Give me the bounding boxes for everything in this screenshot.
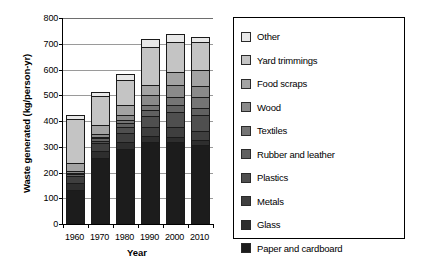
bar-1960 [66,115,85,224]
y-tick-label: 700 [24,39,58,49]
stacked-bar-chart: Waste generated (kg/person-yr) 010020030… [0,0,426,278]
y-tick-label: 400 [24,116,58,126]
legend-swatch-icon [241,79,251,89]
bar-segment [91,96,110,126]
y-tick-label: 800 [24,13,58,23]
legend-item[interactable]: Other [241,25,404,49]
bar-1970 [91,92,110,224]
bar-2000 [166,34,185,224]
y-tick-mark [59,121,63,122]
chart-legend: OtherYard trimmingsFood scrapsWoodTextil… [233,17,405,239]
bar-segment [166,85,185,97]
legend-swatch-icon [241,220,251,230]
bar-segment [191,145,210,224]
bar-segment [191,70,210,86]
x-tick-mark [63,224,64,228]
x-tick-mark [88,224,89,228]
bar-segment [141,47,160,86]
x-tick-label-2010: 2010 [180,232,220,242]
x-tick-mark [113,224,114,228]
bar-segment [191,86,210,98]
y-tick-label: 500 [24,90,58,100]
bar-segment [116,149,135,224]
legend-swatch-icon [241,55,251,65]
legend-item[interactable]: Metals [241,190,404,214]
x-tick-mark [188,224,189,228]
legend-label: Other [257,31,280,42]
bar-segment [191,115,210,131]
legend-item[interactable]: Wood [241,96,404,120]
y-tick-mark [59,147,63,148]
legend-swatch-icon [241,243,251,253]
legend-label: Food scraps [257,78,307,89]
bar-1980 [116,74,135,224]
legend-item[interactable]: Yard trimmings [241,49,404,73]
bar-segment [66,190,85,224]
x-axis-title: Year [97,247,177,258]
legend-swatch-icon [241,32,251,42]
y-tick-mark [59,173,63,174]
y-tick-label: 300 [24,142,58,152]
bar-2010 [191,37,210,224]
legend-item[interactable]: Plastics [241,166,404,190]
legend-item[interactable]: Paper and cardboard [241,237,404,261]
legend-label: Metals [257,196,284,207]
bar-segment [91,158,110,224]
y-tick-mark [59,18,63,19]
bar-segment [141,142,160,224]
legend-label: Yard trimmings [257,55,317,66]
y-tick-mark [59,198,63,199]
legend-item[interactable]: Food scraps [241,72,404,96]
y-tick-label: 200 [24,168,58,178]
bar-segment [66,119,85,163]
y-tick-mark [59,95,63,96]
legend-swatch-icon [241,149,251,159]
y-axis-tick-labels: 0100200300400500600700800 [24,0,58,278]
legend-swatch-icon [241,196,251,206]
bar-segment [166,42,185,73]
bar-segment [116,80,135,106]
y-tick-mark [59,44,63,45]
legend-label: Textiles [257,125,287,136]
legend-label: Plastics [257,172,288,183]
gridline [63,18,213,19]
x-tick-mark [213,224,214,228]
y-tick-label: 100 [24,193,58,203]
bar-segment [191,42,210,70]
bar-segment [166,72,185,86]
bar-segment [166,112,185,128]
y-tick-mark [59,70,63,71]
x-tick-mark [163,224,164,228]
y-tick-label: 600 [24,65,58,75]
legend-label: Glass [257,219,280,230]
legend-swatch-icon [241,102,251,112]
y-tick-label: 0 [24,219,58,229]
legend-label: Rubber and leather [257,149,335,160]
legend-label: Wood [257,102,281,113]
legend-label: Paper and cardboard [257,243,342,254]
legend-swatch-icon [241,173,251,183]
bar-1990 [141,39,160,224]
x-tick-mark [138,224,139,228]
legend-item[interactable]: Glass [241,213,404,237]
legend-item[interactable]: Textiles [241,119,404,143]
plot-area [62,18,213,225]
bar-segment [166,142,185,224]
legend-swatch-icon [241,126,251,136]
legend-item[interactable]: Rubber and leather [241,143,404,167]
